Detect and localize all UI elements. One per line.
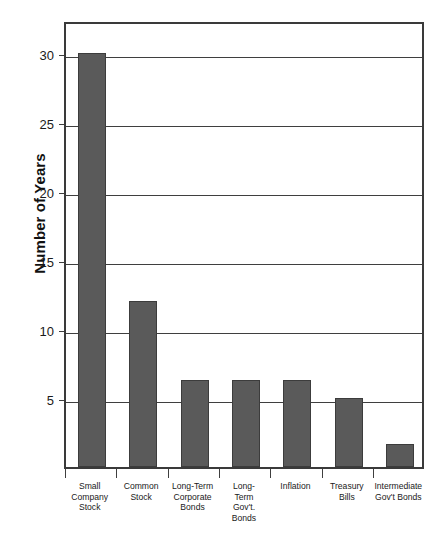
y-axis-tick-label: 20: [14, 186, 54, 201]
plot-area: [64, 22, 424, 469]
x-axis-label-line: Term: [218, 492, 269, 503]
bar: [232, 380, 260, 467]
x-axis-label-line: Bills: [321, 492, 372, 503]
gridline: [66, 57, 422, 58]
x-axis-label-line: Inflation: [270, 481, 321, 492]
x-axis-label-line: Stock: [64, 502, 115, 513]
bar: [129, 301, 157, 467]
x-axis-label-line: Treasury: [321, 481, 372, 492]
x-axis-tick-mark: [116, 469, 117, 478]
x-axis-tick-mark: [322, 469, 323, 478]
x-axis-tick-mark: [65, 469, 66, 478]
y-axis-tick-label: 15: [14, 255, 54, 270]
gridline: [66, 195, 422, 196]
gridline: [66, 126, 422, 127]
x-axis-label-line: Small: [64, 481, 115, 492]
x-axis-tick-mark: [219, 469, 220, 478]
bar: [283, 380, 311, 467]
x-axis-label-line: Gov't.: [218, 502, 269, 513]
x-axis-label-line: Long-: [218, 481, 269, 492]
bar: [181, 380, 209, 467]
gridline: [66, 333, 422, 334]
x-axis-label-line: Long-Term: [167, 481, 218, 492]
y-axis-tick-label: 5: [14, 393, 54, 408]
bar: [386, 444, 414, 467]
x-axis-label-line: Intermediate: [373, 481, 424, 492]
x-axis-label-line: Bonds: [218, 513, 269, 524]
x-axis-label-line: Stock: [115, 492, 166, 503]
x-axis-label-line: Company: [64, 492, 115, 503]
x-axis-tick-mark: [373, 469, 374, 478]
x-axis-label: Long-TermGov't.Bonds: [218, 481, 269, 523]
x-axis-label: IntermediateGov't Bonds: [373, 481, 424, 502]
x-axis-label-line: Common: [115, 481, 166, 492]
gridline: [66, 264, 422, 265]
x-axis-tick-mark: [270, 469, 271, 478]
y-axis-title: Number of Years: [31, 114, 48, 314]
y-axis-tick-label: 10: [14, 324, 54, 339]
x-axis-label: Long-TermCorporateBonds: [167, 481, 218, 513]
bar: [78, 53, 106, 467]
x-axis-label: CommonStock: [115, 481, 166, 502]
bar-chart: Number of Years 51015202530 SmallCompany…: [0, 0, 442, 535]
y-axis-tick-label: 30: [14, 48, 54, 63]
x-axis-label-line: Corporate: [167, 492, 218, 503]
x-axis-tick-mark: [168, 469, 169, 478]
x-axis-label: Inflation: [270, 481, 321, 492]
x-axis-label: TreasuryBills: [321, 481, 372, 502]
y-axis-tick-label: 25: [14, 117, 54, 132]
x-axis-label: SmallCompanyStock: [64, 481, 115, 513]
bar: [335, 398, 363, 467]
x-axis-label-line: Bonds: [167, 502, 218, 513]
x-axis-label-line: Gov't Bonds: [373, 492, 424, 503]
